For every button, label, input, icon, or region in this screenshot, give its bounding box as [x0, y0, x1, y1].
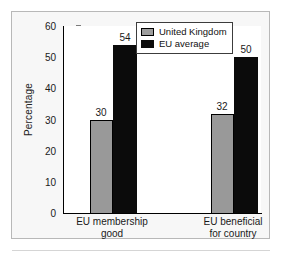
- x-axis-label-line-1: EU beneficial: [173, 216, 290, 228]
- legend-item-eu-average[interactable]: EU average: [141, 38, 227, 49]
- x-axis-label-line-1: EU membership: [52, 216, 172, 228]
- x-axis-label-line-2: good: [52, 228, 172, 240]
- legend-swatch-icon-eu-average: [141, 40, 154, 48]
- bar-united-kingdom-eu-membership-good[interactable]: [90, 120, 113, 214]
- legend-swatch-icon-united-kingdom: [141, 28, 154, 36]
- y-tick-label-60: 60: [45, 21, 56, 32]
- y-tick-label-40: 40: [45, 83, 56, 94]
- bar-value-united-kingdom-eu-beneficial-for-country: 32: [202, 101, 242, 112]
- y-tick-label-20: 20: [45, 146, 56, 157]
- legend-label-united-kingdom: United Kingdom: [159, 27, 227, 37]
- footer-divider: [12, 250, 270, 251]
- x-axis-line: [63, 213, 262, 214]
- bar-eu-average-eu-beneficial-for-country[interactable]: [234, 57, 258, 214]
- bar-eu-average-eu-membership-good[interactable]: [113, 45, 137, 214]
- y-axis-tick-labels: 60 50 40 30 20 10 0: [30, 12, 56, 238]
- y-tick-label-10: 10: [45, 177, 56, 188]
- y-tick-label-30: 30: [45, 115, 56, 126]
- chart-legend[interactable]: United Kingdom EU average: [136, 22, 233, 54]
- bar-value-united-kingdom-eu-membership-good: 30: [81, 107, 121, 118]
- x-axis-label-line-2: for country: [173, 228, 290, 240]
- bar-group-eu-membership-good: 30 54: [64, 26, 160, 214]
- x-axis-label-eu-beneficial-for-country: EU beneficial for country: [173, 216, 290, 240]
- x-axis-label-eu-membership-good: EU membership good: [52, 216, 172, 240]
- y-tick-label-50: 50: [45, 52, 56, 63]
- bar-group-eu-beneficial-for-country: 32 50: [160, 26, 260, 214]
- legend-label-eu-average: EU average: [159, 39, 209, 49]
- legend-item-united-kingdom[interactable]: United Kingdom: [141, 26, 227, 37]
- bar-united-kingdom-eu-beneficial-for-country[interactable]: [211, 114, 234, 214]
- plot-area: 30 54 32 50: [63, 26, 261, 214]
- chart-figure-frame: Percentage 60 50 40 30 20 10 0 30 54: [11, 11, 270, 239]
